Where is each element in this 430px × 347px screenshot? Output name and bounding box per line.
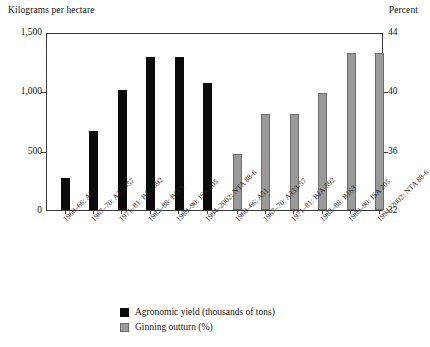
right-axis-tick-36: 36 (388, 146, 398, 156)
left-axis-tick-0: 0 (37, 205, 42, 215)
legend-item-1: Ginning outturn (%) (120, 320, 275, 334)
legend-label-1: Ginning outturn (%) (135, 322, 213, 332)
legend-swatch-black (120, 308, 129, 317)
left-axis-tick-500: 500 (28, 146, 42, 156)
left-axis-caption: Kilograms per hectare (8, 5, 95, 15)
right-axis-tick-40: 40 (388, 86, 398, 96)
bar-black-0 (61, 178, 70, 210)
legend-swatch-gray (120, 323, 129, 332)
left-axis-tick-1000: 1,000 (21, 86, 42, 96)
right-axis-caption: Percent (389, 5, 418, 15)
left-axis-tick-1500: 1,500 (21, 27, 42, 37)
right-axis-tick-44: 44 (388, 27, 398, 37)
legend-label-0: Agronomic yield (thousands of tons) (135, 307, 275, 317)
legend-item-0: Agronomic yield (thousands of tons) (120, 305, 275, 319)
chart-legend: Agronomic yield (thousands of tons)Ginni… (120, 305, 275, 335)
